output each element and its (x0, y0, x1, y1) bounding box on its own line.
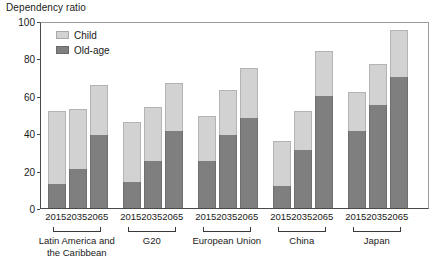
x-tick-label: 2015 (45, 211, 66, 222)
bar-segment-child (315, 51, 333, 96)
bar-segment-old-age (369, 105, 387, 208)
bar-segment-old-age (69, 169, 87, 208)
chart-title: Dependency ratio (6, 2, 86, 13)
bar-stack (219, 90, 237, 208)
bar-stack (369, 64, 387, 208)
y-tick-label-20: 20 (24, 166, 35, 177)
square-swatch-icon (56, 31, 69, 39)
bar-stack (240, 68, 258, 208)
bar-segment-child (369, 64, 387, 105)
x-tick-label: 2065 (87, 211, 108, 222)
legend-item-old-age: Old-age (56, 43, 110, 57)
bar-segment-old-age (123, 182, 141, 208)
bar-segment-child (273, 141, 291, 186)
bar-segment-child (294, 111, 312, 150)
group-bracket (53, 227, 101, 232)
bar-segment-old-age (348, 131, 366, 208)
group-bracket (128, 227, 176, 232)
y-tick-mark (37, 209, 40, 210)
bar-segment-old-age (144, 161, 162, 208)
bar-segment-child (165, 83, 183, 132)
chart-legend: Child Old-age (56, 28, 110, 58)
x-tick-label: 2015 (345, 211, 366, 222)
x-tick-label: 2065 (162, 211, 183, 222)
bar-segment-old-age (240, 118, 258, 208)
x-tick-label: 2035 (216, 211, 237, 222)
bar-segment-child (69, 109, 87, 169)
bar-segment-child (144, 107, 162, 161)
bar-segment-old-age (48, 184, 66, 208)
x-tick-label: 2015 (270, 211, 291, 222)
x-tick-label: 2035 (66, 211, 87, 222)
x-tick-label: 2065 (312, 211, 333, 222)
bar-stack (273, 141, 291, 208)
x-tick-label: 2035 (366, 211, 387, 222)
y-tick-label-80: 80 (24, 54, 35, 65)
bar-stack (69, 109, 87, 208)
legend-label-old-age: Old-age (74, 45, 110, 56)
y-tick-label-40: 40 (24, 129, 35, 140)
bar-stack (198, 116, 216, 208)
legend-label-child: Child (74, 30, 97, 41)
x-tick-label: 2065 (237, 211, 258, 222)
bar-segment-child (198, 116, 216, 161)
x-tick-label: 2015 (120, 211, 141, 222)
x-axis-group-labels: Latin America and the CaribbeanG20Europe… (40, 227, 429, 269)
bar-stack (315, 51, 333, 208)
group-bracket (278, 227, 326, 232)
x-tick-label: 2065 (387, 211, 408, 222)
group-bracket (203, 227, 251, 232)
x-axis-tick-labels: 2015203520652015203520652015203520652015… (40, 211, 429, 225)
group-name-label: Japan (334, 235, 420, 247)
bar-segment-child (219, 90, 237, 135)
x-tick-label: 2015 (195, 211, 216, 222)
bar-segment-child (123, 122, 141, 182)
bar-segment-child (348, 92, 366, 131)
bar-segment-child (90, 85, 108, 135)
group-name-label: G20 (109, 235, 195, 247)
bar-segment-old-age (315, 96, 333, 208)
x-tick-label: 2035 (141, 211, 162, 222)
y-tick-label-100: 100 (18, 17, 35, 28)
y-tick-label-60: 60 (24, 91, 35, 102)
bar-stack (348, 92, 366, 208)
bar-segment-old-age (165, 131, 183, 208)
group-name-label: China (259, 235, 345, 247)
bar-segment-child (240, 68, 258, 118)
bar-stack (90, 85, 108, 208)
bar-stack (294, 111, 312, 208)
bar-stack (144, 107, 162, 208)
bar-stack (165, 83, 183, 208)
bar-segment-child (48, 111, 66, 184)
bar-stack (390, 30, 408, 208)
legend-item-child: Child (56, 28, 110, 42)
y-tick-label-0: 0 (29, 204, 35, 215)
bar-segment-old-age (198, 161, 216, 208)
square-swatch-icon (56, 46, 69, 54)
bar-segment-old-age (390, 77, 408, 208)
bar-segment-old-age (90, 135, 108, 208)
group-name-label: European Union (184, 235, 270, 247)
bar-stack (48, 111, 66, 208)
group-bracket (353, 227, 401, 232)
group-name-label: Latin America and the Caribbean (34, 235, 120, 258)
bar-segment-old-age (294, 150, 312, 208)
bar-segment-old-age (273, 186, 291, 208)
bar-stack (123, 122, 141, 208)
bar-segment-child (390, 30, 408, 77)
y-axis: 020406080100 (0, 22, 40, 210)
bar-segment-old-age (219, 135, 237, 208)
x-tick-label: 2035 (291, 211, 312, 222)
dependency-ratio-chart: Dependency ratio 020406080100 Child Old-… (0, 0, 434, 269)
